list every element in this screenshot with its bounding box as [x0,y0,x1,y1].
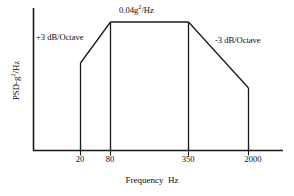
annotation-fall-slope: -3 dB/Octave [215,36,261,45]
y-axis-title-main: PSD-g [11,77,21,100]
plateau-value-prefix: 0.04g [119,5,138,15]
y-axis-title: PSD-g2/Hz [12,47,21,113]
annotation-rise-slope: +3 dB/Octave [36,33,84,42]
axis-lines [33,8,283,151]
segment-rise-20-80 [81,22,111,63]
x-tick-label-80: 80 [98,155,122,164]
x-tick-label-20: 20 [68,155,92,164]
y-axis-title-superscript: 2 [9,73,16,76]
psd-plot-canvas [0,0,294,196]
x-tick-label-350: 350 [173,155,203,164]
x-tick-label-2000: 2000 [235,155,271,164]
annotation-plateau-level: 0.04g2/Hz [119,6,154,15]
psd-profile-figure: 0.04g2/Hz +3 dB/Octave -3 dB/Octave 20 8… [0,0,294,196]
plateau-value-suffix: /Hz [141,5,153,15]
y-axis-title-tail: /Hz [11,61,21,74]
segment-fall-350-2000 [189,22,249,88]
x-axis-title: Frequency Hz [97,176,207,185]
